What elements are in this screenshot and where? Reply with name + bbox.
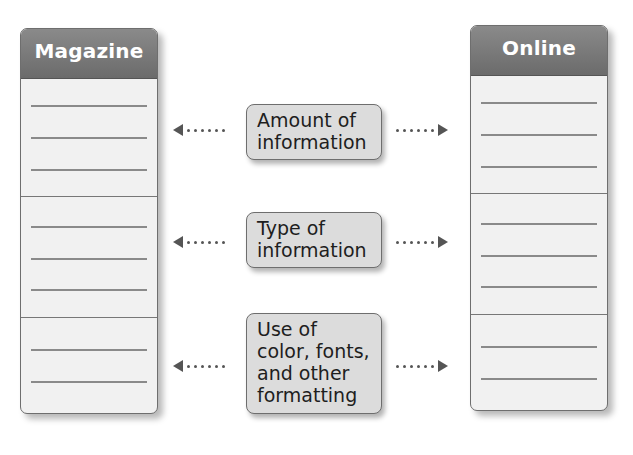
comparison-box-type: Type of information — [246, 212, 382, 268]
online-panel-title: Online — [471, 26, 607, 76]
online-section-1 — [471, 76, 607, 194]
magazine-section-1 — [21, 79, 157, 197]
arrow-right-3 — [396, 359, 448, 373]
online-section-2 — [471, 194, 607, 315]
arrow-right-1 — [396, 123, 448, 137]
magazine-panel-title: Magazine — [21, 29, 157, 79]
arrowhead-left-icon — [173, 124, 183, 136]
magazine-panel: Magazine — [20, 28, 158, 414]
text-line — [481, 166, 597, 168]
comparison-box-amount: Amount of information — [246, 104, 382, 160]
text-line — [31, 105, 147, 107]
magazine-section-2 — [21, 197, 157, 318]
online-section-3 — [471, 315, 607, 411]
arrowhead-left-icon — [173, 236, 183, 248]
arrow-left-2 — [173, 235, 225, 249]
text-line — [481, 223, 597, 225]
arrowhead-right-icon — [438, 124, 448, 136]
text-line — [31, 289, 147, 291]
text-line — [31, 258, 147, 260]
text-line — [481, 378, 597, 380]
text-line — [31, 169, 147, 171]
text-line — [481, 255, 597, 257]
text-line — [31, 137, 147, 139]
arrow-left-1 — [173, 123, 225, 137]
text-line — [481, 134, 597, 136]
text-line — [481, 346, 597, 348]
magazine-section-3 — [21, 318, 157, 414]
text-line — [481, 286, 597, 288]
arrowhead-right-icon — [438, 236, 448, 248]
text-line — [31, 226, 147, 228]
arrowhead-right-icon — [438, 360, 448, 372]
text-line — [481, 102, 597, 104]
comparison-box-formatting: Use of color, fonts, and other formattin… — [246, 313, 382, 414]
online-panel: Online — [470, 25, 608, 411]
text-line — [31, 381, 147, 383]
arrowhead-left-icon — [173, 360, 183, 372]
arrow-left-3 — [173, 359, 225, 373]
arrow-right-2 — [396, 235, 448, 249]
text-line — [31, 349, 147, 351]
